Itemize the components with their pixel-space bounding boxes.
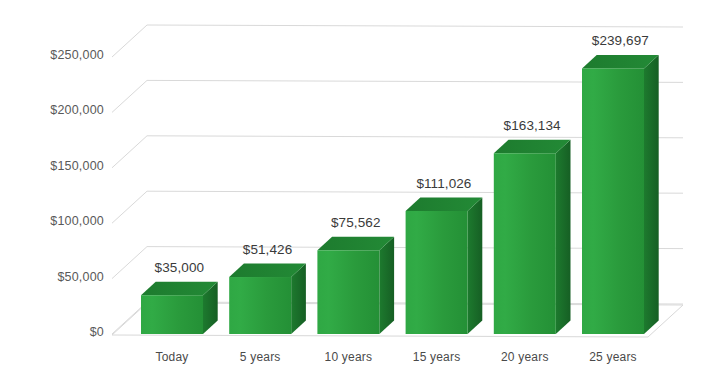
y-axis-tick-label: $100,000 bbox=[0, 214, 104, 228]
y-axis-tick-label: $200,000 bbox=[0, 103, 104, 117]
bar-side-face bbox=[379, 237, 394, 334]
bar-side-face bbox=[468, 198, 483, 334]
bar-value-label: $111,026 bbox=[384, 176, 504, 191]
bar-value-label: $51,426 bbox=[208, 242, 328, 257]
bar-front-face bbox=[317, 250, 379, 334]
bar-front-face bbox=[141, 295, 203, 334]
bar-column bbox=[141, 282, 218, 334]
x-axis-tick-label: 15 years bbox=[387, 350, 487, 364]
x-axis-tick-label: 10 years bbox=[298, 350, 398, 364]
y-axis-tick-label: $50,000 bbox=[0, 270, 104, 284]
bar-front-face bbox=[582, 68, 644, 334]
bar-column bbox=[317, 237, 394, 334]
y-axis-tick-label: $0 bbox=[0, 325, 104, 339]
bar-column bbox=[229, 264, 306, 334]
x-axis-tick-label: 25 years bbox=[563, 350, 663, 364]
y-axis-tick-label: $150,000 bbox=[0, 159, 104, 173]
x-axis-tick-label: 5 years bbox=[210, 350, 310, 364]
bar-side-face bbox=[556, 140, 571, 334]
x-axis-tick-label: 20 years bbox=[475, 350, 575, 364]
bar-side-face bbox=[644, 55, 659, 334]
chart-plot-area bbox=[0, 0, 720, 386]
y-axis-tick-label: $250,000 bbox=[0, 48, 104, 62]
bar-value-label: $239,697 bbox=[560, 33, 680, 48]
bar-column bbox=[582, 55, 659, 334]
bar-front-face bbox=[229, 277, 291, 334]
x-axis-tick-label: Today bbox=[122, 350, 222, 364]
bar-column bbox=[406, 198, 483, 334]
bar-column bbox=[494, 140, 571, 334]
bar-value-label: $163,134 bbox=[472, 118, 592, 133]
bar-value-label: $75,562 bbox=[296, 215, 416, 230]
bars-group bbox=[141, 55, 659, 334]
chart-container: $0$50,000$100,000$150,000$200,000$250,00… bbox=[0, 0, 720, 386]
bar-value-label: $35,000 bbox=[119, 260, 239, 275]
